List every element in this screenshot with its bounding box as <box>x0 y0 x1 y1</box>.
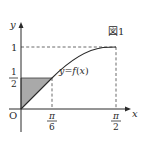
y-tick-half-den: 2 <box>11 79 17 89</box>
x-tick-pi-sixth: π 6 <box>47 111 57 132</box>
x-tick-pi-half: π 2 <box>111 111 121 132</box>
x-tick-pi-half-num: π <box>112 111 120 121</box>
curve-label-eq: = <box>64 65 72 76</box>
y-tick-half: 1 2 <box>9 67 18 89</box>
figure-caption: 図1 <box>108 26 124 37</box>
curve-label: y=f(x) <box>58 65 89 76</box>
y-axis-arrow-icon <box>19 22 24 28</box>
origin-label: O <box>9 110 17 121</box>
x-tick-pi-half-den: 2 <box>113 122 119 132</box>
x-axis-label: x <box>132 108 138 119</box>
y-tick-1: 1 <box>11 42 17 53</box>
y-axis-label: y <box>9 19 16 30</box>
x-axis-arrow-icon <box>125 107 131 112</box>
y-tick-half-num: 1 <box>11 67 17 77</box>
x-tick-pi-sixth-den: 6 <box>49 122 55 132</box>
function-graph: y x 図1 O 1 1 2 π 6 π 2 y=f(x) <box>0 0 141 141</box>
curve-label-close: ) <box>85 65 89 76</box>
x-tick-pi-sixth-num: π <box>48 111 56 121</box>
